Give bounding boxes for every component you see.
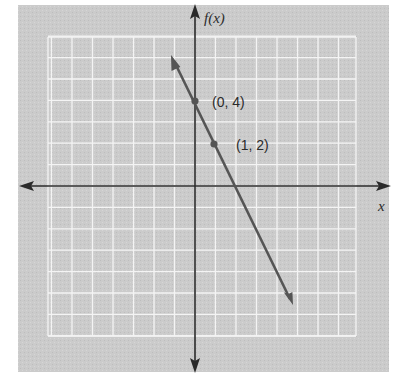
point-label-1-2: (1, 2) — [236, 137, 269, 153]
point-0-4 — [191, 97, 198, 104]
x-axis-label: x — [377, 198, 385, 214]
function-graph: f(x) x (0, 4) (1, 2) — [0, 0, 411, 381]
point-1-2 — [210, 140, 217, 147]
graph-panel — [18, 5, 389, 372]
y-axis-label: f(x) — [204, 10, 225, 27]
point-label-0-4: (0, 4) — [212, 94, 245, 110]
